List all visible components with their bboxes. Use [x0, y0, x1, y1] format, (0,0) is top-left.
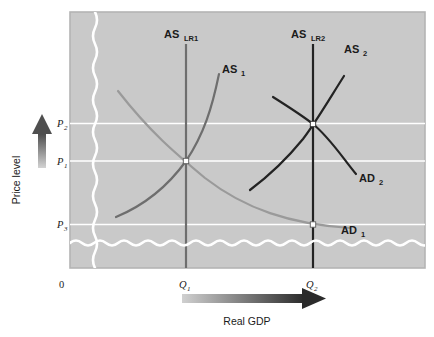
y-tick-p2-text: P [56, 118, 64, 129]
x-tick-q2-subscript: 2 [314, 285, 318, 293]
label-ad1-text: AD [341, 224, 357, 236]
y-tick-p2-subscript: 2 [64, 124, 68, 132]
label-as1-text: AS [222, 63, 237, 75]
label-as1-subscript: 1 [241, 69, 245, 78]
label-as2-subscript: 2 [363, 49, 367, 58]
y-tick-p1-subscript: 1 [64, 162, 68, 170]
as-ad-diagram: AS LR1 AS 1 AS LR2 AS 2 AD 2 AD 1 [0, 0, 434, 337]
x-axis-title: Real GDP [223, 315, 270, 327]
label-as-lr2-text: AS [291, 28, 306, 40]
equilibrium-point-1 [183, 158, 188, 163]
x-tick-q1-text: Q [179, 279, 187, 290]
y-axis-title: Price level [10, 156, 22, 204]
plot-area-background [70, 12, 425, 268]
x-tick-q2-text: Q [306, 279, 314, 290]
label-ad2-subscript: 2 [379, 178, 383, 187]
label-as-lr1-subscript: LR1 [184, 34, 198, 43]
figure-root: AS LR1 AS 1 AS LR2 AS 2 AD 2 AD 1 [0, 0, 434, 337]
label-ad1-subscript: 1 [361, 230, 365, 239]
label-as-lr2-subscript: LR2 [311, 34, 325, 43]
label-as-lr1-text: AS [164, 28, 179, 40]
label-ad2-text: AD [359, 172, 375, 184]
y-tick-p3-text: P [56, 219, 64, 230]
label-as2-text: AS [344, 43, 359, 55]
x-tick-q1-subscript: 1 [187, 285, 191, 293]
y-tick-p1-text: P [56, 156, 64, 167]
equilibrium-point-3 [310, 222, 315, 227]
y-tick-p3-subscript: 3 [63, 225, 68, 233]
origin-label: 0 [59, 279, 64, 290]
equilibrium-point-2 [310, 121, 315, 126]
